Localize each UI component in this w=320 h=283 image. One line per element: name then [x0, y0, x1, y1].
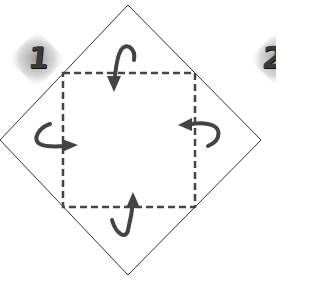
fold-line-square: [63, 73, 195, 207]
step-number-1: 1: [26, 40, 51, 75]
step-number-2: 2: [260, 40, 276, 75]
